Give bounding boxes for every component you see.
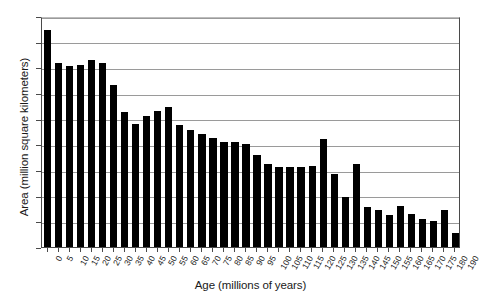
x-axis-tick-mark	[113, 248, 114, 252]
x-axis-tick-mark	[289, 248, 290, 252]
x-axis-tick-mark	[58, 248, 59, 252]
bar	[331, 174, 338, 247]
bar	[264, 164, 271, 247]
bar	[297, 167, 304, 247]
bar	[55, 63, 62, 247]
x-axis-tick-mark	[47, 248, 48, 252]
bar	[121, 112, 128, 247]
bar	[110, 85, 117, 247]
bar	[154, 111, 161, 247]
bar	[242, 144, 249, 247]
bar	[386, 215, 393, 247]
x-axis-tick-mark	[267, 248, 268, 252]
bar	[364, 207, 371, 247]
bar	[44, 30, 51, 247]
bar	[220, 142, 227, 247]
y-axis-title: Area (million square kilometers)	[18, 17, 30, 257]
x-axis-tick-label: 5	[64, 254, 75, 263]
x-axis-tick-label: 190	[466, 254, 481, 271]
x-axis-tick-mark	[322, 248, 323, 252]
x-axis-tick-mark	[157, 248, 158, 252]
bar	[452, 233, 459, 247]
bar	[99, 63, 106, 247]
x-axis-tick-mark	[300, 248, 301, 252]
x-axis-tick-mark	[432, 248, 433, 252]
x-axis-tick-mark	[388, 248, 389, 252]
y-axis-tick-mark	[36, 248, 41, 249]
bar	[231, 142, 238, 247]
x-axis-tick-mark	[168, 248, 169, 252]
x-axis-tick-mark	[91, 248, 92, 252]
bar	[430, 221, 437, 247]
y-axis-tick-mark	[36, 197, 41, 198]
x-axis-tick-mark	[366, 248, 367, 252]
bar	[198, 134, 205, 247]
x-axis-tick-mark	[421, 248, 422, 252]
bar	[132, 124, 139, 247]
x-axis-tick-mark	[245, 248, 246, 252]
bar	[309, 166, 316, 247]
x-axis-tick-mark	[201, 248, 202, 252]
plot-area	[41, 17, 460, 248]
y-axis-tick-mark	[36, 68, 41, 69]
bar	[275, 167, 282, 247]
x-axis-tick-mark	[223, 248, 224, 252]
x-axis-tick-mark	[256, 248, 257, 252]
bar	[419, 219, 426, 247]
bar	[441, 210, 448, 247]
bar	[143, 116, 150, 247]
x-axis-tick-mark	[212, 248, 213, 252]
bar	[375, 210, 382, 247]
x-axis-tick-mark	[179, 248, 180, 252]
bar	[165, 107, 172, 247]
y-axis-tick-mark	[36, 145, 41, 146]
x-axis-tick-mark	[333, 248, 334, 252]
x-axis-tick-label: 0	[53, 254, 64, 263]
bar	[66, 66, 73, 247]
x-axis-tick-label: 95	[265, 254, 278, 267]
x-axis-tick-mark	[355, 248, 356, 252]
bar	[209, 138, 216, 247]
x-axis-tick-mark	[311, 248, 312, 252]
x-axis-tick-mark	[234, 248, 235, 252]
bar	[187, 130, 194, 247]
y-axis-tick-mark	[36, 222, 41, 223]
y-axis-tick-mark	[36, 17, 41, 18]
bar	[88, 60, 95, 247]
x-axis-tick-mark	[69, 248, 70, 252]
y-axis-tick-mark	[36, 171, 41, 172]
y-axis-tick-mark	[36, 94, 41, 95]
x-axis-tick-mark	[80, 248, 81, 252]
x-axis-tick-mark	[190, 248, 191, 252]
bar	[176, 125, 183, 247]
gridline	[42, 18, 459, 19]
bar	[408, 214, 415, 247]
x-axis-tick-mark	[344, 248, 345, 252]
x-axis-tick-mark	[454, 248, 455, 252]
x-axis-tick-mark	[410, 248, 411, 252]
gridline	[42, 43, 459, 44]
x-axis-tick-mark	[124, 248, 125, 252]
bar	[253, 155, 260, 247]
bar	[286, 167, 293, 247]
x-axis-tick-mark	[102, 248, 103, 252]
x-axis-tick-mark	[278, 248, 279, 252]
y-axis-tick-mark	[36, 120, 41, 121]
bar	[77, 65, 84, 247]
bar	[353, 164, 360, 247]
x-axis-title: Age (millions of years)	[41, 279, 460, 291]
bar	[342, 197, 349, 247]
x-axis-tick-mark	[135, 248, 136, 252]
bar	[320, 139, 327, 247]
x-axis-tick-mark	[443, 248, 444, 252]
bar	[397, 206, 404, 247]
x-axis-tick-mark	[399, 248, 400, 252]
x-axis-tick-mark	[146, 248, 147, 252]
x-axis-tick-mark	[377, 248, 378, 252]
y-axis-tick-mark	[36, 43, 41, 44]
